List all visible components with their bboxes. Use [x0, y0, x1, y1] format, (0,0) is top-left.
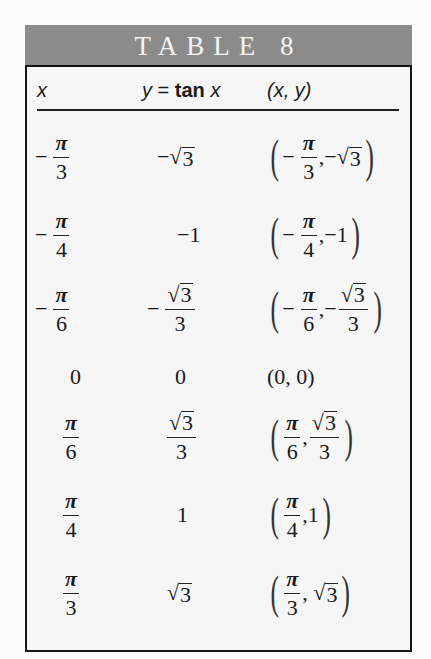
table-row: −π6 −√33 (−π6,−√33) — [27, 279, 410, 339]
y-value: 1 — [177, 485, 188, 545]
y-value: −√33 — [147, 279, 197, 339]
point-value: (π3, √3) — [267, 563, 354, 623]
table-row: −π4 −1 (−π4,−1) — [27, 205, 410, 265]
x-value: π4 — [61, 485, 81, 545]
header-point: (x, y) — [267, 79, 311, 102]
y-value: 0 — [175, 347, 186, 407]
point-value: (π6,√33) — [267, 407, 356, 467]
table-title-band: TABLE 8 — [25, 25, 412, 65]
table-row: π6 √33 (π6,√33) — [27, 407, 410, 467]
x-value: −π3 — [35, 127, 71, 187]
point-value: (−π3,−√3) — [267, 127, 377, 187]
point-value: (−π4,−1) — [267, 205, 363, 265]
x-value: 0 — [70, 347, 81, 407]
y-value: √33 — [165, 407, 198, 467]
table-row: −π3 −√3 (−π3,−√3) — [27, 127, 410, 187]
table-row: π3 √3 (π3, √3) — [27, 563, 410, 623]
y-value: −1 — [177, 205, 200, 265]
x-value: −π4 — [35, 205, 71, 265]
y-value: −√3 — [157, 127, 195, 187]
header-rule — [37, 109, 399, 111]
point-value: (−π6,−√33) — [267, 279, 385, 339]
table-title: TABLE 8 — [25, 31, 412, 62]
x-value: π3 — [61, 563, 81, 623]
table-body: x y = tan x (x, y) −π3 −√3 (−π3,−√3) −π4… — [25, 65, 412, 652]
header-y-tan-x: y = tan x — [142, 79, 220, 102]
y-value: √3 — [167, 563, 192, 623]
table-row: π4 1 (π4,1) — [27, 485, 410, 545]
point-value: (π4,1) — [267, 485, 334, 545]
header-x: x — [37, 79, 47, 102]
point-value: (0, 0) — [267, 347, 315, 407]
table-row: 0 0 (0, 0) — [27, 347, 410, 407]
x-value: −π6 — [35, 279, 71, 339]
x-value: π6 — [61, 407, 81, 467]
